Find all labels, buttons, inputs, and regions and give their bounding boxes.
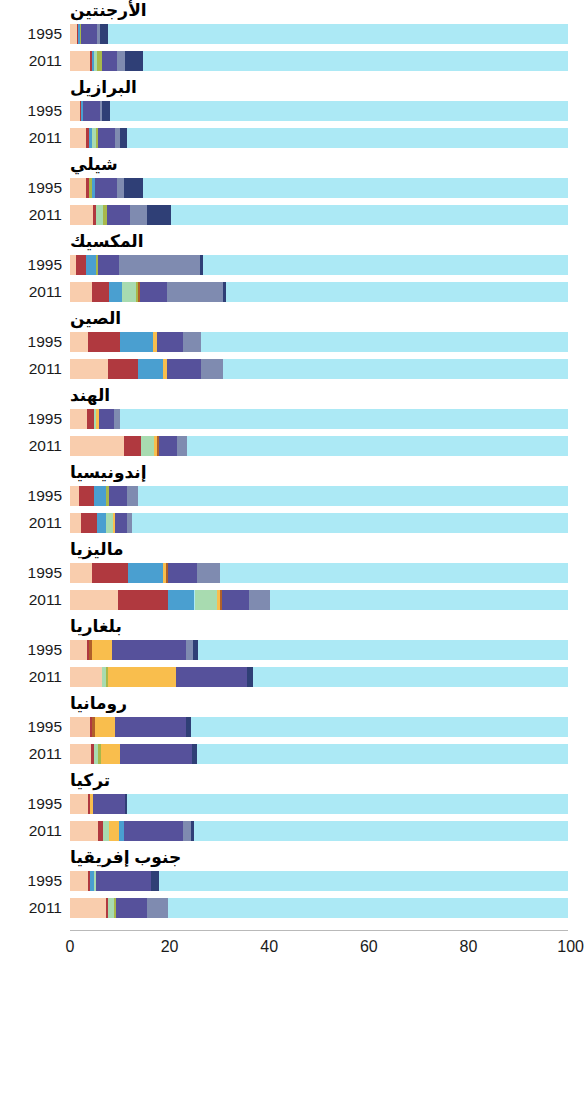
year-label: 2011 — [0, 127, 62, 149]
bar-track — [70, 101, 568, 121]
bar-segment — [79, 486, 94, 506]
bar-segment — [191, 821, 195, 841]
bar-area — [70, 282, 568, 302]
bar-segment — [167, 282, 224, 302]
country-label: شيلي — [0, 154, 574, 177]
bar-segment — [186, 640, 193, 660]
bar-segment — [98, 128, 114, 148]
bar-segment — [115, 513, 126, 533]
year-label: 1995 — [0, 254, 62, 276]
country-label: الأرجنتين — [0, 0, 574, 23]
bar-segment — [183, 821, 191, 841]
bar-segment — [117, 178, 124, 198]
bar-segment — [157, 332, 183, 352]
country-group: ماليزيا19952011 — [0, 539, 574, 616]
bar-segment — [122, 282, 136, 302]
bar-segment — [120, 332, 153, 352]
bar-segment — [223, 282, 226, 302]
bar-area — [70, 513, 568, 533]
bar-segment — [70, 24, 77, 44]
bar-segment — [117, 51, 125, 71]
bar-track — [70, 178, 568, 198]
bar-row: 2011 — [0, 820, 574, 847]
country-group: بلغاريا19952011 — [0, 616, 574, 693]
country-label: تركيا — [0, 770, 574, 793]
bar-segment — [81, 513, 97, 533]
year-label: 1995 — [0, 870, 62, 892]
bar-segment — [108, 359, 138, 379]
bar-segment — [87, 409, 94, 429]
country-label: الصين — [0, 308, 574, 331]
country-group: تركيا19952011 — [0, 770, 574, 847]
bar-area — [70, 486, 568, 506]
year-label: 1995 — [0, 639, 62, 661]
bar-area — [70, 667, 568, 687]
bar-row: 1995 — [0, 716, 574, 743]
bar-segment — [112, 640, 186, 660]
bar-row: 1995 — [0, 485, 574, 512]
bar-segment — [92, 640, 112, 660]
country-group: الصين19952011 — [0, 308, 574, 385]
bar-segment — [125, 794, 127, 814]
bar-row: 2011 — [0, 50, 574, 77]
bar-segment — [222, 590, 249, 610]
bar-area — [70, 898, 568, 918]
year-label: 1995 — [0, 408, 62, 430]
bar-segment — [76, 255, 86, 275]
bar-segment — [100, 24, 108, 44]
bar-track — [70, 128, 568, 148]
bar-segment — [186, 717, 190, 737]
bar-track — [70, 794, 568, 814]
country-group: شيلي19952011 — [0, 154, 574, 231]
bar-segment — [102, 101, 110, 121]
country-label: الهند — [0, 385, 574, 408]
bar-segment — [124, 821, 183, 841]
bar-segment — [96, 871, 151, 891]
bar-area — [70, 563, 568, 583]
bar-segment — [120, 744, 192, 764]
country-group: المكسيك19952011 — [0, 231, 574, 308]
bar-segment — [116, 898, 147, 918]
bar-segment — [106, 513, 113, 533]
bar-segment — [70, 332, 88, 352]
bar-segment — [176, 667, 247, 687]
bar-segment — [249, 590, 270, 610]
bar-row: 2011 — [0, 743, 574, 770]
bar-segment — [95, 717, 115, 737]
bar-segment — [70, 717, 90, 737]
year-label: 1995 — [0, 100, 62, 122]
bar-segment — [147, 205, 171, 225]
bar-segment — [168, 590, 195, 610]
bar-segment — [70, 205, 93, 225]
bar-segment — [124, 178, 143, 198]
bar-segment — [81, 24, 97, 44]
bar-segment — [94, 486, 106, 506]
bar-segment — [70, 590, 118, 610]
bar-segment — [120, 128, 127, 148]
bar-segment — [140, 282, 167, 302]
year-label: 1995 — [0, 485, 62, 507]
bar-segment — [125, 51, 143, 71]
bar-track — [70, 24, 568, 44]
bar-segment — [115, 717, 186, 737]
bar-segment — [70, 563, 92, 583]
country-group: إندونيسيا19952011 — [0, 462, 574, 539]
bar-segment — [98, 255, 118, 275]
bar-row: 2011 — [0, 666, 574, 693]
bar-segment — [70, 744, 91, 764]
bar-area — [70, 178, 568, 198]
year-label: 2011 — [0, 512, 62, 534]
bar-segment — [107, 205, 130, 225]
bar-area — [70, 794, 568, 814]
x-axis: 020406080100 — [0, 924, 574, 970]
country-label: رومانيا — [0, 693, 574, 716]
bar-track — [70, 513, 568, 533]
bar-segment — [118, 590, 168, 610]
country-label: بلغاريا — [0, 616, 574, 639]
country-label: المكسيك — [0, 231, 574, 254]
country-label: جنوب إفريقيا — [0, 847, 574, 870]
country-group: الهند19952011 — [0, 385, 574, 462]
bar-row: 1995 — [0, 408, 574, 435]
bar-segment — [138, 359, 163, 379]
bar-area — [70, 255, 568, 275]
